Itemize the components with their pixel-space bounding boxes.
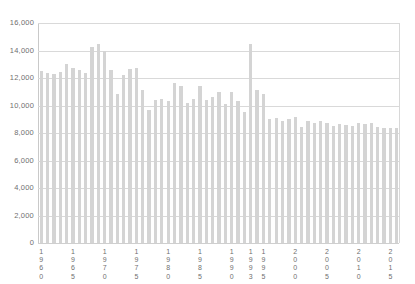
x-axis-tick-digit: 5 [385, 273, 395, 281]
bar [306, 121, 309, 243]
bar [217, 92, 220, 243]
bar [319, 121, 322, 243]
x-axis-tick-digit: 1 [36, 248, 46, 256]
x-axis-tick-digit: 1 [68, 248, 78, 256]
x-axis-tick-label: 1965 [68, 248, 78, 281]
x-axis-tick-digit: 9 [227, 256, 237, 264]
x-axis-tick-digit: 0 [385, 256, 395, 264]
x-axis-tick-label: 1980 [163, 248, 173, 281]
bar [344, 125, 347, 243]
bar [243, 112, 246, 243]
bar [376, 127, 379, 243]
gridline [38, 243, 399, 244]
x-axis-tick-digit: 0 [322, 264, 332, 272]
bar [281, 121, 284, 243]
y-axis-tick-label: 2,000 [0, 212, 34, 220]
bar [325, 123, 328, 243]
y-axis-tick-label: 10,000 [0, 102, 34, 110]
bar [46, 73, 49, 244]
x-axis-tick-digit: 5 [322, 273, 332, 281]
y-axis-tick-label: 0 [0, 239, 34, 247]
x-axis-tick-label: 1985 [195, 248, 205, 281]
x-axis-tick-digit: 5 [195, 273, 205, 281]
x-axis-tick-digit: 2 [322, 248, 332, 256]
bar [71, 68, 74, 243]
bar [313, 123, 316, 243]
x-axis-tick-digit: 0 [163, 273, 173, 281]
bar [363, 124, 366, 243]
bar [40, 71, 43, 243]
bar [236, 101, 239, 243]
bar [224, 104, 227, 243]
bar [370, 123, 373, 243]
x-axis-tick-digit: 0 [322, 256, 332, 264]
bar [205, 100, 208, 243]
bar [160, 99, 163, 243]
x-axis-tick-label: 1970 [100, 248, 110, 281]
x-axis-tick-digit: 9 [131, 256, 141, 264]
x-axis-tick-digit: 0 [290, 273, 300, 281]
x-axis-tick-digit: 7 [100, 264, 110, 272]
bar [109, 70, 112, 243]
x-axis-tick-label: 2005 [322, 248, 332, 281]
bar [249, 44, 252, 243]
x-axis-labels: 1960196519701975198019851990199319952000… [38, 248, 400, 284]
bar [211, 97, 214, 243]
x-axis-tick-digit: 2 [385, 248, 395, 256]
x-axis-tick-digit: 8 [195, 264, 205, 272]
x-axis-tick-digit: 1 [258, 248, 268, 256]
bar [128, 69, 131, 243]
bar [389, 128, 392, 244]
bar [78, 70, 81, 243]
bar [287, 119, 290, 243]
plot-area [38, 23, 400, 243]
bar [173, 83, 176, 243]
bar [186, 103, 189, 243]
bar [52, 74, 55, 243]
x-axis-tick-digit: 0 [290, 264, 300, 272]
y-axis-tick-label: 6,000 [0, 157, 34, 165]
bar [147, 110, 150, 243]
x-axis-tick-digit: 1 [195, 248, 205, 256]
bar [351, 126, 354, 243]
x-axis-tick-digit: 9 [36, 256, 46, 264]
x-axis-tick-digit: 6 [68, 264, 78, 272]
bar [332, 126, 335, 243]
x-axis-tick-digit: 9 [100, 256, 110, 264]
bar [167, 101, 170, 243]
bar [300, 127, 303, 243]
bar [141, 90, 144, 243]
x-axis-tick-digit: 9 [68, 256, 78, 264]
bar [116, 94, 119, 243]
y-axis-tick-label: 8,000 [0, 129, 34, 137]
y-axis-labels: 16,00014,00012,00010,0008,0006,0004,0002… [0, 0, 34, 284]
x-axis-tick-digit: 9 [246, 264, 256, 272]
x-axis-tick-digit: 9 [258, 256, 268, 264]
x-axis-tick-label: 2000 [290, 248, 300, 281]
bar [179, 86, 182, 243]
bar [357, 123, 360, 243]
bar [103, 51, 106, 244]
bar [268, 119, 271, 243]
bar [122, 75, 125, 243]
x-axis-tick-digit: 5 [68, 273, 78, 281]
x-axis-tick-digit: 0 [290, 256, 300, 264]
x-axis-tick-digit: 1 [227, 248, 237, 256]
y-axis-tick-label: 16,000 [0, 19, 34, 27]
x-axis-tick-digit: 1 [131, 248, 141, 256]
bar [230, 92, 233, 243]
bar [65, 64, 68, 243]
x-axis-tick-label: 1995 [258, 248, 268, 281]
bar [395, 128, 398, 244]
x-axis-tick-digit: 1 [163, 248, 173, 256]
x-axis-tick-digit: 8 [163, 264, 173, 272]
x-axis-tick-digit: 9 [258, 264, 268, 272]
bar [255, 90, 258, 243]
x-axis-tick-digit: 9 [246, 256, 256, 264]
x-axis-tick-digit: 1 [100, 248, 110, 256]
x-axis-tick-digit: 5 [131, 273, 141, 281]
bar [154, 100, 157, 243]
y-axis-tick-label: 14,000 [0, 47, 34, 55]
x-axis-tick-digit: 5 [258, 273, 268, 281]
x-axis-tick-digit: 0 [36, 273, 46, 281]
